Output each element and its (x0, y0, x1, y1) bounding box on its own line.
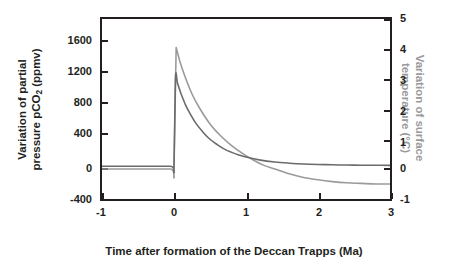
y-tick-label-right-minus1: -1 (400, 194, 410, 205)
x-axis-title: Time after formation of the Deccan Trapp… (0, 245, 468, 257)
plot-area (100, 17, 392, 201)
y-tick-label-left-1200: 1200 (0, 66, 92, 77)
y-tick-label-right-4: 4 (400, 44, 406, 55)
chart-curves (102, 19, 390, 199)
temperature-curve (102, 47, 390, 184)
x-tickmark-3 (391, 193, 393, 199)
y-tick-label-right-3: 3 (400, 75, 406, 86)
y-tick-label-left-1600: 1600 (0, 35, 92, 46)
y-axis-right-ticks: 5 4 3 2 1 0 -1 (400, 0, 460, 273)
chart-figure: Variation of partial pressure pCO2 (ppmv… (0, 0, 468, 273)
y-tickmark-right-minus1 (384, 199, 390, 201)
y-tick-label-left-0: 0 (0, 163, 92, 174)
y-tick-label-left-minus400: -400 (0, 194, 92, 205)
y-tick-label-right-2: 2 (400, 106, 406, 117)
x-tick-label-1: 1 (243, 207, 249, 218)
y-tick-label-right-5: 5 (400, 13, 406, 24)
x-tick-label-minus1: -1 (96, 207, 106, 218)
y-axis-left-ticks: 1600 1200 800 400 0 -400 (0, 0, 92, 273)
x-tick-label-2: 2 (316, 207, 322, 218)
x-tick-label-3: 3 (388, 207, 394, 218)
x-axis-ticks: -1 0 1 2 3 (0, 207, 468, 225)
pco2-curve (102, 73, 390, 173)
y-tickmark-left-minus400 (102, 199, 108, 201)
y-tick-label-left-400: 400 (0, 128, 92, 139)
y-tick-label-right-0: 0 (400, 163, 406, 174)
x-tick-label-0: 0 (171, 207, 177, 218)
y-tick-label-right-1: 1 (400, 137, 406, 148)
y-tick-label-left-800: 800 (0, 97, 92, 108)
